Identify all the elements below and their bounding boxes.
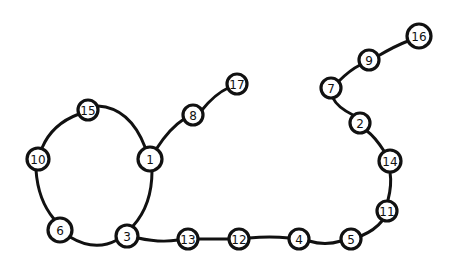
node-4: 4 bbox=[289, 229, 309, 249]
edge-10-6 bbox=[36, 170, 54, 219]
edge-15-1 bbox=[98, 106, 145, 147]
edge-3-1 bbox=[133, 171, 152, 226]
edge-1-8 bbox=[157, 119, 184, 148]
node-11: 11 bbox=[377, 201, 397, 221]
node-14: 14 bbox=[379, 150, 401, 172]
node-label: 8 bbox=[189, 109, 197, 123]
node-5: 5 bbox=[341, 229, 361, 249]
edge-9-16 bbox=[378, 41, 408, 56]
node-label: 13 bbox=[180, 233, 195, 247]
node-9: 9 bbox=[359, 50, 379, 70]
node-6: 6 bbox=[48, 218, 72, 242]
edge-2-7 bbox=[333, 98, 353, 115]
nodes-layer: 1510163817131245111427916 bbox=[27, 24, 431, 249]
node-15: 15 bbox=[78, 100, 98, 120]
node-10: 10 bbox=[27, 148, 49, 170]
edge-4-5 bbox=[309, 241, 341, 244]
node-16: 16 bbox=[407, 24, 431, 48]
node-label: 15 bbox=[80, 104, 95, 118]
node-label: 12 bbox=[231, 233, 246, 247]
node-13: 13 bbox=[178, 229, 198, 249]
edge-14-2 bbox=[367, 131, 384, 151]
node-label: 1 bbox=[146, 153, 154, 167]
node-label: 16 bbox=[411, 30, 426, 44]
edge-11-14 bbox=[388, 172, 391, 200]
node-label: 5 bbox=[347, 233, 355, 247]
graph-diagram: 1510163817131245111427916 bbox=[0, 0, 455, 268]
node-label: 9 bbox=[365, 54, 373, 68]
node-1: 1 bbox=[138, 147, 162, 171]
node-17: 17 bbox=[227, 74, 247, 94]
node-7: 7 bbox=[321, 78, 341, 98]
node-8: 8 bbox=[183, 105, 203, 125]
edge-6-3 bbox=[70, 237, 117, 245]
edge-12-4 bbox=[249, 237, 289, 238]
edge-8-17 bbox=[202, 88, 228, 110]
node-label: 14 bbox=[382, 155, 397, 169]
node-label: 4 bbox=[295, 233, 303, 247]
node-label: 17 bbox=[229, 78, 244, 92]
node-3: 3 bbox=[116, 225, 138, 247]
node-label: 11 bbox=[379, 205, 394, 219]
node-label: 6 bbox=[56, 224, 64, 238]
node-label: 2 bbox=[356, 117, 364, 131]
node-label: 7 bbox=[327, 82, 335, 96]
node-label: 10 bbox=[30, 153, 45, 167]
edge-5-11 bbox=[361, 221, 382, 236]
edge-15-10 bbox=[42, 114, 79, 148]
edge-3-13 bbox=[138, 238, 178, 241]
edge-7-9 bbox=[339, 65, 360, 81]
edges-layer bbox=[36, 41, 408, 245]
node-label: 3 bbox=[123, 230, 131, 244]
node-2: 2 bbox=[350, 113, 370, 133]
node-12: 12 bbox=[229, 229, 249, 249]
